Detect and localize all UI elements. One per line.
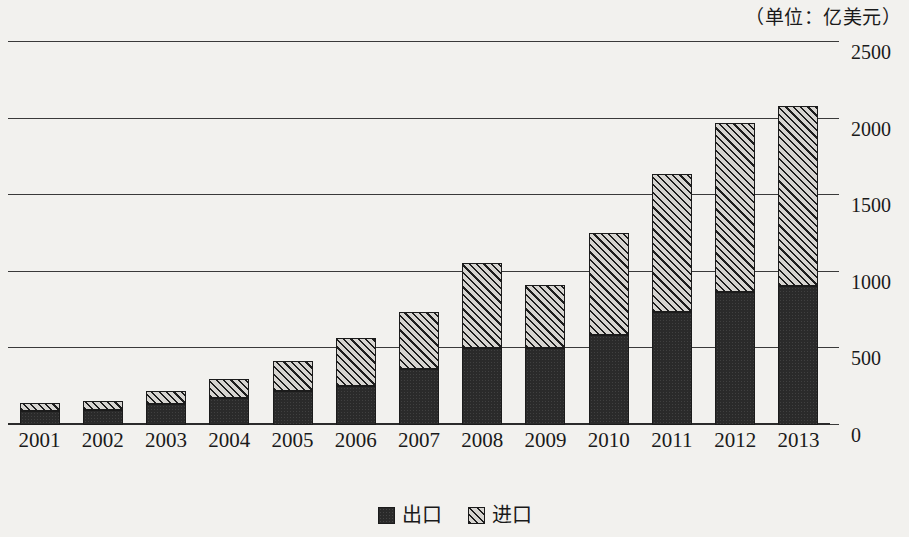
bar-segment-import-2012 bbox=[715, 123, 755, 292]
bar-segment-export-2008 bbox=[462, 348, 502, 425]
x-axis-tick-label: 2013 bbox=[767, 428, 830, 453]
bar-segment-export-2006 bbox=[336, 386, 376, 425]
bar-segment-import-2013 bbox=[778, 106, 818, 286]
x-axis-tick-label: 2004 bbox=[198, 428, 261, 453]
bar-segment-export-2012 bbox=[715, 292, 755, 425]
bar-2011 bbox=[652, 174, 692, 425]
bar-segment-import-2008 bbox=[462, 263, 502, 348]
chart-root: （单位：亿美元） 05001000150020002500 2001200220… bbox=[0, 0, 909, 537]
x-axis-tick-label: 2002 bbox=[71, 428, 134, 453]
bar-segment-import-2011 bbox=[652, 174, 692, 313]
y-tick-mark-1500 bbox=[830, 194, 839, 195]
bar-segment-export-2003 bbox=[146, 404, 186, 425]
bar-2006 bbox=[336, 338, 376, 425]
bar-2010 bbox=[589, 233, 629, 425]
bar-segment-export-2011 bbox=[652, 312, 692, 425]
bar-2013 bbox=[778, 106, 818, 425]
unit-caption: （单位：亿美元） bbox=[745, 2, 901, 29]
bar-2009 bbox=[525, 285, 565, 425]
bar-segment-import-2009 bbox=[525, 285, 565, 349]
gridline-2500 bbox=[8, 41, 830, 42]
bar-segment-export-2002 bbox=[83, 410, 123, 425]
bar-segment-import-2010 bbox=[589, 233, 629, 335]
gridline-2000 bbox=[8, 118, 830, 119]
bar-segment-import-2007 bbox=[399, 312, 439, 369]
bar-segment-export-2004 bbox=[209, 398, 249, 425]
x-axis-tick-label: 2003 bbox=[134, 428, 197, 453]
bar-segment-import-2003 bbox=[146, 391, 186, 405]
x-axis-tick-label: 2007 bbox=[387, 428, 450, 453]
bar-segment-export-2010 bbox=[589, 335, 629, 425]
bar-segment-import-2004 bbox=[209, 379, 249, 398]
x-axis-tick-label: 2008 bbox=[451, 428, 514, 453]
bar-segment-export-2007 bbox=[399, 369, 439, 425]
bar-2008 bbox=[462, 263, 502, 425]
y-tick-mark-2500 bbox=[830, 41, 839, 42]
bar-2007 bbox=[399, 312, 439, 425]
y-tick-mark-0 bbox=[830, 424, 839, 425]
bar-2001 bbox=[20, 403, 60, 425]
x-axis-tick-label: 2012 bbox=[704, 428, 767, 453]
bar-2004 bbox=[209, 379, 249, 425]
plot-area: 05001000150020002500 bbox=[8, 42, 830, 425]
legend-swatch-import-icon bbox=[468, 507, 485, 524]
bar-segment-export-2005 bbox=[273, 391, 313, 425]
legend-swatch-export-icon bbox=[378, 507, 395, 524]
bar-2003 bbox=[146, 391, 186, 425]
x-axis-tick-label: 2009 bbox=[514, 428, 577, 453]
x-axis-tick-label: 2010 bbox=[577, 428, 640, 453]
gridline-1000 bbox=[8, 271, 830, 272]
bar-segment-import-2001 bbox=[20, 403, 60, 411]
x-axis-tick-label: 2011 bbox=[640, 428, 703, 453]
bar-2002 bbox=[83, 401, 123, 426]
y-tick-mark-1000 bbox=[830, 271, 839, 272]
x-axis-tick-label: 2005 bbox=[261, 428, 324, 453]
x-axis-tick-label: 2006 bbox=[324, 428, 387, 453]
legend-entry-export: 出口 bbox=[378, 505, 442, 525]
bar-2012 bbox=[715, 123, 755, 425]
legend-label-export: 出口 bbox=[402, 505, 442, 525]
bar-segment-export-2009 bbox=[525, 348, 565, 425]
bar-2005 bbox=[273, 361, 313, 425]
y-tick-mark-2000 bbox=[830, 118, 839, 119]
x-axis-tick-label: 2001 bbox=[8, 428, 71, 453]
bar-segment-export-2013 bbox=[778, 286, 818, 425]
legend-entry-import: 进口 bbox=[468, 505, 532, 525]
legend-label-import: 进口 bbox=[492, 505, 532, 525]
bar-segment-import-2002 bbox=[83, 401, 123, 410]
y-tick-mark-500 bbox=[830, 347, 839, 348]
bar-segment-import-2005 bbox=[273, 361, 313, 390]
bar-segment-import-2006 bbox=[336, 338, 376, 385]
bar-segment-export-2001 bbox=[20, 411, 60, 425]
gridline-1500 bbox=[8, 194, 830, 195]
chart-legend: 出口进口 bbox=[0, 505, 909, 525]
